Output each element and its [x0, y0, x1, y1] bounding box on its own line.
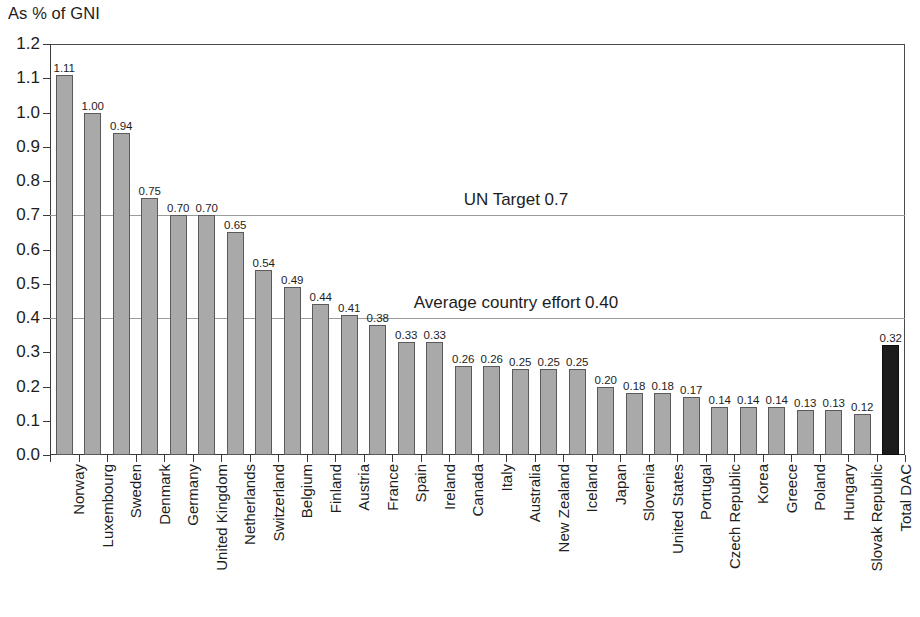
- x-axis-tick: [763, 455, 764, 462]
- x-axis-tick: [592, 455, 593, 462]
- y-axis-tick: [43, 352, 50, 353]
- bar-value-label: 0.13: [823, 397, 845, 409]
- x-axis-tick: [677, 455, 678, 462]
- y-axis-tick: [43, 44, 50, 45]
- bar: 0.25: [569, 369, 586, 455]
- x-axis-tick: [79, 455, 80, 462]
- bar: 0.33: [398, 342, 415, 455]
- x-axis-category-label: United States: [669, 464, 686, 554]
- x-axis-category-label: Denmark: [156, 464, 173, 525]
- x-axis-category-label: Australia: [526, 464, 543, 522]
- chart-title: As % of GNI: [8, 4, 100, 23]
- x-axis-category-label: United Kingdom: [213, 464, 230, 571]
- x-axis-category-label: Austria: [355, 464, 372, 511]
- x-axis-category-label: Ireland: [441, 464, 458, 510]
- plot-area: 1.21.11.00.90.80.70.60.50.40.30.20.10.0 …: [50, 44, 905, 455]
- x-axis-tick: [734, 455, 735, 462]
- y-axis-tick: [43, 421, 50, 422]
- bar: 0.18: [626, 393, 643, 455]
- bar: 0.18: [654, 393, 671, 455]
- x-axis-tick: [392, 455, 393, 462]
- x-axis-tick: [164, 455, 165, 462]
- x-axis-tick: [649, 455, 650, 462]
- bar-value-label: 0.14: [709, 394, 731, 406]
- bar-value-label: 0.33: [395, 329, 417, 341]
- x-axis-category-label: Korea: [754, 464, 771, 504]
- y-axis-tick: [43, 455, 50, 456]
- bar: 0.13: [825, 410, 842, 455]
- y-axis-tick: [43, 284, 50, 285]
- bar-value-label: 0.17: [680, 384, 702, 396]
- bar-value-label: 0.44: [310, 291, 332, 303]
- y-axis-label: 0.5: [16, 274, 40, 294]
- x-axis-category-label: Total DAC: [897, 464, 914, 532]
- bar: 0.26: [483, 366, 500, 455]
- x-axis-tick: [250, 455, 251, 462]
- x-axis-tick: [563, 455, 564, 462]
- bar: 0.32: [882, 345, 899, 455]
- plot-frame-left: [50, 44, 51, 455]
- bar: 0.17: [683, 397, 700, 455]
- x-axis-tick: [335, 455, 336, 462]
- x-axis-tick: [506, 455, 507, 462]
- x-axis-category-label: Japan: [612, 464, 629, 505]
- x-axis-category-label: Czech Republic: [726, 464, 743, 569]
- x-axis-tick: [221, 455, 222, 462]
- y-axis-label: 0.3: [16, 342, 40, 362]
- y-axis-tick: [43, 181, 50, 182]
- bar-value-label: 1.00: [82, 100, 104, 112]
- bar: 0.41: [341, 315, 358, 455]
- bar: 0.70: [198, 215, 215, 455]
- bar-value-label: 0.70: [196, 202, 218, 214]
- bar: 0.25: [512, 369, 529, 455]
- y-axis-tick: [43, 78, 50, 79]
- x-axis-category-label: France: [384, 464, 401, 511]
- x-axis-category-label: Luxembourg: [99, 464, 116, 547]
- bar: 0.12: [854, 414, 871, 455]
- bar: 0.13: [797, 410, 814, 455]
- y-axis-tick: [43, 147, 50, 148]
- y-axis-label: 0.6: [16, 240, 40, 260]
- x-axis-tick: [449, 455, 450, 462]
- bar-value-label: 0.18: [623, 380, 645, 392]
- x-axis-tick: [107, 455, 108, 462]
- bar: 0.44: [312, 304, 329, 455]
- y-axis-label: 1.0: [16, 103, 40, 123]
- x-axis-category-label: Sweden: [127, 464, 144, 518]
- bar: 0.65: [227, 232, 244, 455]
- bar: 0.75: [141, 198, 158, 455]
- x-axis-category-label: Canada: [469, 464, 486, 517]
- bar-value-label: 0.14: [766, 394, 788, 406]
- x-axis-category-label: Slovak Republic: [868, 464, 885, 572]
- bar: 1.00: [84, 113, 101, 456]
- bar: 0.94: [113, 133, 130, 455]
- plot-frame-top: [50, 44, 905, 45]
- y-axis-tick: [43, 318, 50, 319]
- bar: 0.26: [455, 366, 472, 455]
- x-axis-category-label: Netherlands: [241, 464, 258, 545]
- bar-value-label: 0.14: [737, 394, 759, 406]
- x-axis-category-label: Norway: [70, 464, 87, 515]
- bar: 0.33: [426, 342, 443, 455]
- bar-chart: As % of GNI 1.21.11.00.90.80.70.60.50.40…: [0, 0, 920, 617]
- bar-value-label: 0.41: [338, 302, 360, 314]
- x-axis-category-label: Belgium: [298, 464, 315, 518]
- y-axis-label: 0.7: [16, 205, 40, 225]
- bar-value-label: 0.26: [452, 353, 474, 365]
- x-axis-tick: [620, 455, 621, 462]
- bar-value-label: 0.25: [509, 356, 531, 368]
- y-axis-label: 0.1: [16, 411, 40, 431]
- bar-value-label: 0.26: [481, 353, 503, 365]
- y-axis-tick: [43, 250, 50, 251]
- bar-value-label: 0.38: [367, 312, 389, 324]
- x-axis-tick: [848, 455, 849, 462]
- x-axis-tick: [364, 455, 365, 462]
- bar-value-label: 0.33: [424, 329, 446, 341]
- bar-value-label: 0.32: [880, 332, 902, 344]
- x-axis-category-label: Germany: [184, 464, 201, 526]
- bar: 0.14: [740, 407, 757, 455]
- bar-value-label: 0.12: [851, 401, 873, 413]
- x-axis-tick: [278, 455, 279, 462]
- bar: 0.20: [597, 387, 614, 456]
- bar: 0.14: [711, 407, 728, 455]
